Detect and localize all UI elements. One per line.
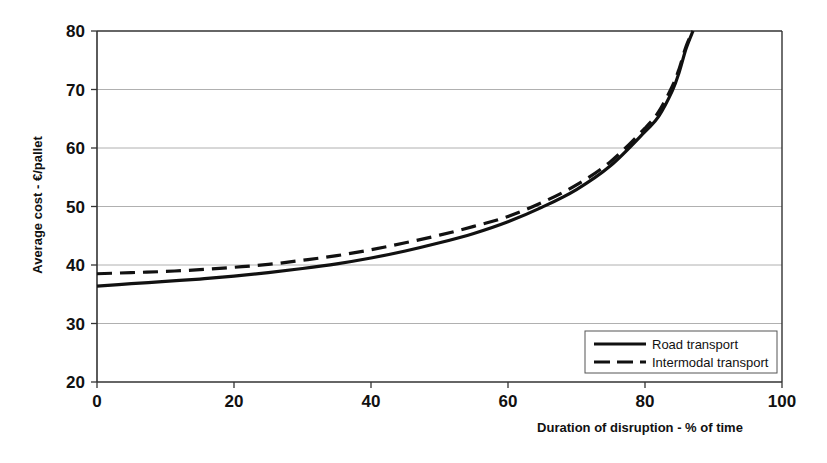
- x-axis-title: Duration of disruption - % of time: [537, 420, 743, 435]
- x-tick-label-100: 100: [768, 392, 796, 411]
- y-tick-label-30: 30: [66, 315, 85, 334]
- y-tick-label-20: 20: [66, 373, 85, 392]
- legend-label-road-transport: Road transport: [652, 337, 738, 352]
- y-axis-title: Average cost - €/pallet: [30, 136, 45, 274]
- chart-container: 020406080100 20304050607080 Duration of …: [0, 0, 827, 463]
- x-tick-label-20: 20: [225, 392, 244, 411]
- line-chart: 020406080100 20304050607080 Duration of …: [0, 0, 827, 463]
- y-tick-label-40: 40: [66, 256, 85, 275]
- legend[interactable]: Road transport Intermodal transport: [585, 331, 777, 373]
- y-tick-label-60: 60: [66, 139, 85, 158]
- y-tick-label-70: 70: [66, 81, 85, 100]
- x-tick-label-0: 0: [92, 392, 101, 411]
- chart-background: [0, 0, 827, 463]
- x-tick-label-60: 60: [499, 392, 518, 411]
- y-tick-label-80: 80: [66, 22, 85, 41]
- x-tick-label-80: 80: [636, 392, 655, 411]
- y-tick-label-50: 50: [66, 198, 85, 217]
- x-tick-label-40: 40: [362, 392, 381, 411]
- legend-label-intermodal-transport: Intermodal transport: [652, 355, 769, 370]
